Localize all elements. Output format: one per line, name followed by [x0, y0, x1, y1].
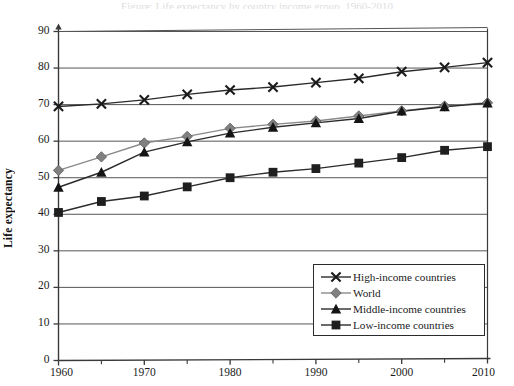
diamond-icon	[319, 286, 353, 300]
chart-figure: Figure: Life expectancy by country incom…	[0, 0, 514, 386]
legend-label: Middle-income countries	[353, 302, 466, 316]
square-icon	[319, 318, 353, 332]
triangle-icon	[319, 302, 353, 316]
y-tick-label: 0	[26, 353, 50, 365]
y-tick-label: 60	[26, 133, 50, 145]
legend-label: Low-income countries	[353, 318, 454, 332]
x-cross-icon	[319, 270, 353, 284]
y-tick-label: 70	[26, 97, 50, 109]
legend-item-high-income: High-income countries	[319, 269, 479, 285]
y-tick-label: 50	[26, 170, 50, 182]
x-tick-label: 1960	[40, 366, 84, 378]
legend-item-middle-income: Middle-income countries	[319, 301, 479, 317]
legend-item-world: World	[319, 285, 479, 301]
y-tick-label: 30	[26, 243, 50, 255]
legend-label: High-income countries	[353, 270, 456, 284]
y-tick-label: 80	[26, 60, 50, 72]
legend-item-low-income: Low-income countries	[319, 317, 479, 333]
x-tick-label: 2010	[462, 366, 506, 378]
y-tick-label: 40	[26, 206, 50, 218]
y-tick-label: 20	[26, 279, 50, 291]
y-tick-label: 10	[26, 316, 50, 328]
chart-legend: High-income countries World Middle-incom…	[313, 264, 485, 336]
x-tick-label: 1980	[208, 366, 252, 378]
data-series	[53, 58, 492, 217]
x-tick-label: 2000	[380, 366, 424, 378]
x-tick-label: 1990	[294, 366, 338, 378]
legend-label: World	[353, 286, 381, 300]
x-tick-label: 1970	[122, 366, 166, 378]
y-tick-label: 90	[26, 24, 50, 36]
